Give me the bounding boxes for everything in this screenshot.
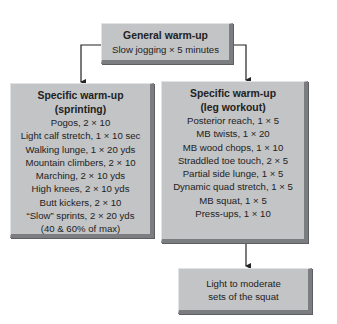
leg-workout-item: MB wood chops, 1 × 10 bbox=[162, 141, 304, 154]
leg-workout-item: Straddled toe touch, 2 × 5 bbox=[162, 154, 304, 167]
sprinting-item: Marching, 2 × 10 yds bbox=[11, 169, 150, 182]
general-warmup-box: General warm-up Slow jogging × 5 minutes bbox=[101, 23, 233, 64]
leg-workout-item: Posterior reach, 1 × 5 bbox=[162, 114, 304, 127]
arrow-general-to-leg-workout bbox=[232, 45, 246, 80]
sprinting-title: Specific warm-up bbox=[11, 89, 150, 103]
leg-workout-item: MB squat, 1 × 5 bbox=[162, 194, 304, 207]
squat-line-2: sets of the squat bbox=[179, 290, 308, 303]
sprinting-item: (40 & 60% of max) bbox=[11, 222, 150, 235]
arrow-general-to-sprinting bbox=[81, 45, 101, 82]
leg-workout-title: Specific warm-up bbox=[162, 87, 304, 101]
sprinting-subtitle: (sprinting) bbox=[11, 103, 150, 117]
sprinting-item: Walking lunge, 1 × 20 yds bbox=[11, 143, 150, 156]
leg-workout-subtitle: (leg workout) bbox=[162, 101, 304, 115]
sprinting-warmup-box: Specific warm-up (sprinting) Pogos, 2 × … bbox=[10, 83, 154, 238]
sprinting-item: Mountain climbers, 2 × 10 bbox=[11, 156, 150, 169]
general-warmup-subtitle: Slow jogging × 5 minutes bbox=[102, 43, 229, 56]
leg-workout-warmup-box: Specific warm-up (leg workout) Posterior… bbox=[161, 81, 308, 243]
sprinting-item: Butt kickers, 2 × 10 bbox=[11, 196, 150, 209]
general-warmup-title: General warm-up bbox=[102, 29, 229, 43]
sprinting-item: Light calf stretch, 1 × 10 sec bbox=[11, 129, 150, 142]
squat-sets-box: Light to moderate sets of the squat bbox=[178, 268, 312, 314]
leg-workout-item: MB twists, 1 × 20 bbox=[162, 127, 304, 140]
leg-workout-item: Press-ups, 1 × 10 bbox=[162, 207, 304, 220]
sprinting-item: Pogos, 2 × 10 bbox=[11, 116, 150, 129]
leg-workout-item: Dynamic quad stretch, 1 × 5 bbox=[162, 180, 304, 193]
sprinting-item: “Slow” sprints, 2 × 20 yds bbox=[11, 209, 150, 222]
squat-line-1: Light to moderate bbox=[179, 277, 308, 290]
leg-workout-item: Partial side lunge, 1 × 5 bbox=[162, 167, 304, 180]
sprinting-item: High knees, 2 × 10 yds bbox=[11, 182, 150, 195]
